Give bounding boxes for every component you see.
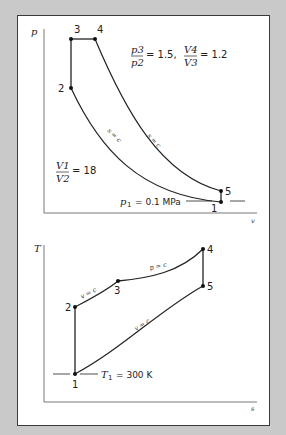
ts-y-axis-label: T [34, 243, 42, 254]
t1-subscript: 1 [108, 374, 112, 382]
ts-point-4 [201, 247, 205, 251]
pv-label-4: 4 [97, 24, 103, 35]
p1-symbol: p [120, 196, 127, 207]
ratio-p-numerator: p3 [131, 44, 144, 55]
ratio-v-numerator: V4 [184, 44, 198, 55]
ts-x-axis-label: s [251, 405, 255, 413]
ts-point-3 [116, 279, 120, 283]
pv-expansion-label: s = c [146, 132, 163, 150]
ts-label-5: 5 [207, 281, 213, 292]
ts-v51-label: v = c [133, 317, 152, 333]
ratio-v-denominator: V3 [184, 57, 198, 68]
ts-label-4: 4 [207, 244, 213, 255]
ts-diagram: T s 1 2 3 4 5 v = c p = c v = c T 1 = 30… [34, 243, 257, 413]
pv-point-4 [93, 37, 97, 41]
pv-label-5: 5 [225, 186, 231, 197]
pv-point-3 [69, 37, 73, 41]
pv-compression-label: s = c [106, 127, 124, 145]
cr-value: = 18 [72, 165, 96, 176]
pv-process-1-2 [71, 88, 221, 202]
ts-point-2 [73, 305, 77, 309]
cr-numerator: V1 [56, 160, 70, 171]
cr-denominator: V2 [56, 173, 70, 184]
pv-process-4-5 [95, 39, 221, 191]
ts-label-2: 2 [65, 302, 71, 313]
dual-combustion-cycle-diagrams: p v 2 3 4 5 1 s = c s = c p3 p2 = 1.5, V… [0, 0, 286, 435]
pv-y-axis-label: p [31, 26, 38, 37]
ratio-p-value: = 1.5, [146, 49, 177, 60]
ratio-p-denominator: p2 [131, 57, 144, 68]
pv-diagram: p v 2 3 4 5 1 s = c s = c p3 p2 = 1.5, V… [31, 24, 257, 225]
ts-v23-label: v = c [79, 286, 98, 301]
pv-point-2 [69, 86, 73, 90]
ratio-v-value: = 1.2 [200, 49, 227, 60]
pv-point-1 [219, 200, 223, 204]
p1-subscript: 1 [127, 201, 131, 209]
pv-label-2: 2 [58, 83, 64, 94]
ts-p34-label: p = c [149, 260, 168, 272]
t1-value: = 300 K [116, 370, 153, 380]
ts-label-1: 1 [72, 379, 78, 390]
pv-point-5 [219, 189, 223, 193]
ts-label-3: 3 [114, 285, 120, 296]
ts-point-5 [201, 284, 205, 288]
ts-point-1 [73, 372, 77, 376]
pv-x-axis-label: v [251, 217, 255, 225]
pv-label-1: 1 [211, 203, 217, 214]
p1-value: = 0.1 MPa [135, 197, 181, 207]
pv-label-3: 3 [74, 24, 80, 35]
